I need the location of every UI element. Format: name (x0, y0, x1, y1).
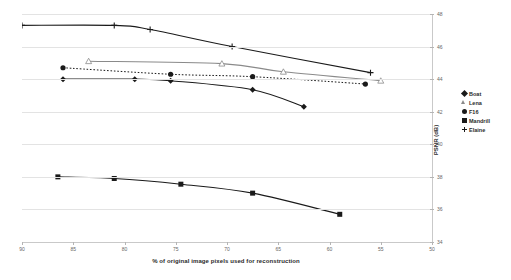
gridline (22, 144, 432, 145)
x-tick-label: 70 (224, 246, 230, 252)
data-point-circle (168, 72, 173, 77)
gridline (22, 177, 432, 178)
series-layer (22, 14, 432, 242)
data-point-diamond (250, 87, 256, 93)
x-tick-mark (278, 242, 279, 245)
gridline (22, 14, 432, 15)
y-tick-label: 46 (437, 44, 443, 49)
x-tick-label: 80 (122, 246, 128, 252)
legend-item-mandrill[interactable]: Mandrill (461, 116, 509, 125)
y-axis-title: PSNR (dB) (433, 125, 439, 155)
legend-item-f16[interactable]: F16 (461, 107, 509, 116)
y-tick-mark (430, 47, 434, 48)
x-tick-label: 90 (19, 246, 25, 252)
x-tick-mark (73, 242, 74, 245)
data-point-square (337, 212, 342, 217)
y-tick-label: 34 (437, 240, 443, 245)
legend-item-elaine[interactable]: Elaine (461, 125, 509, 134)
square-marker-icon (461, 117, 468, 124)
data-point-plus (147, 26, 153, 32)
data-point-plus (111, 22, 117, 28)
x-tick-mark (176, 242, 177, 245)
y-tick-mark (430, 177, 434, 178)
series-line-boat (63, 79, 304, 107)
x-tick-mark (22, 242, 23, 245)
x-tick-label: 60 (327, 246, 333, 252)
legend-item-lena[interactable]: Lena (461, 98, 509, 107)
y-tick-mark (430, 14, 434, 15)
legend-item-label: F16 (469, 109, 478, 115)
data-point-plus (22, 22, 25, 28)
data-point-circle (363, 81, 368, 86)
y-tick-label: 48 (437, 12, 443, 17)
y-tick-label: 44 (437, 77, 443, 82)
series-line-lena (89, 61, 381, 81)
x-tick-label: 55 (378, 246, 384, 252)
data-point-plus (368, 70, 374, 76)
x-tick-mark (125, 242, 126, 245)
plot-area (22, 14, 432, 242)
x-tick-mark (330, 242, 331, 245)
diamond-marker-icon (461, 90, 468, 97)
x-tick-label: 50 (429, 246, 435, 252)
y-tick-mark (430, 209, 434, 210)
gridline (22, 47, 432, 48)
gridline (22, 112, 432, 113)
x-tick-label: 85 (70, 246, 76, 252)
y-tick-mark (430, 79, 434, 80)
series-line-elaine (22, 25, 371, 73)
data-point-circle (60, 65, 65, 70)
legend-item-label: Elaine (469, 127, 485, 133)
x-tick-mark (432, 242, 433, 245)
gridline (22, 79, 432, 80)
legend-item-label: Boat (469, 91, 481, 97)
legend-item-boat[interactable]: Boat (461, 89, 509, 98)
x-axis-title: % of original image pixels used for reco… (0, 258, 452, 264)
y-tick-label: 42 (437, 109, 443, 114)
data-point-square (250, 191, 255, 196)
y-tick-mark (430, 112, 434, 113)
circle-marker-icon (461, 108, 468, 115)
data-point-square (178, 182, 183, 187)
legend-item-label: Lena (469, 100, 482, 106)
x-tick-mark (227, 242, 228, 245)
psnr-line-chart: 3436384042444648 908580757065605550 % of… (0, 0, 511, 280)
legend-item-label: Mandrill (469, 118, 490, 124)
data-point-diamond (301, 104, 307, 110)
x-tick-mark (381, 242, 382, 245)
plus-marker-icon (461, 126, 468, 133)
y-tick-label: 36 (437, 207, 443, 212)
y-tick-label: 38 (437, 174, 443, 179)
x-tick-label: 65 (275, 246, 281, 252)
triangle-open-marker-icon (461, 99, 468, 106)
gridline (22, 209, 432, 210)
x-tick-label: 75 (173, 246, 179, 252)
legend: BoatLenaF16MandrillElaine (461, 89, 509, 134)
